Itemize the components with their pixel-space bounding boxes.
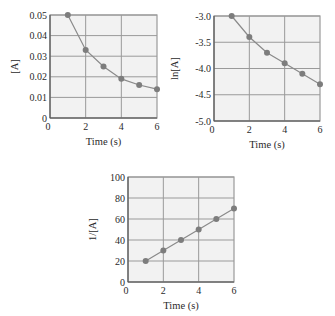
data-point xyxy=(282,60,288,66)
data-point xyxy=(317,81,323,87)
x-axis-label: Time (s) xyxy=(86,136,122,148)
x-tick-label: 2 xyxy=(247,124,252,135)
data-point xyxy=(118,76,124,82)
y-tick-label: 0.01 xyxy=(30,92,48,103)
x-tick-label: 6 xyxy=(155,121,160,132)
data-point xyxy=(154,86,160,92)
x-tick-label: 6 xyxy=(318,124,323,135)
data-point xyxy=(299,71,305,77)
chart-panel: 00.010.020.030.040.050246Time (s)[A]-5.0… xyxy=(0,0,335,316)
data-point xyxy=(229,13,235,19)
y-tick-label: -3.0 xyxy=(195,11,211,22)
x-axis-label: Time (s) xyxy=(249,139,285,151)
y-axis-label: ln[A] xyxy=(169,57,180,80)
data-point xyxy=(143,258,149,264)
data-point xyxy=(178,237,184,243)
x-tick-label: 6 xyxy=(232,285,237,296)
data-point xyxy=(136,82,142,88)
data-point xyxy=(160,248,166,254)
plot-area xyxy=(128,177,234,282)
data-point xyxy=(101,64,107,70)
x-tick-label: 0 xyxy=(124,285,129,296)
data-point xyxy=(231,206,237,212)
x-tick-label: 2 xyxy=(161,285,166,296)
x-tick-label: 4 xyxy=(282,124,287,135)
data-point xyxy=(264,50,270,56)
y-tick-label: 40 xyxy=(115,235,125,246)
y-tick-label: -4.0 xyxy=(195,63,211,74)
y-tick-label: 80 xyxy=(115,193,125,204)
y-tick-label: -4.5 xyxy=(195,89,211,100)
x-tick-label: 0 xyxy=(210,124,215,135)
ln-concentration-chart: -5.0-4.5-4.0-3.5-3.00246Time (s)ln[A] xyxy=(169,11,323,152)
y-tick-label: 0.03 xyxy=(30,51,48,62)
data-point xyxy=(83,47,89,53)
y-tick-label: 20 xyxy=(115,256,125,267)
y-tick-label: 0.04 xyxy=(30,30,48,41)
y-tick-label: 0.05 xyxy=(30,10,48,21)
y-tick-label: 0.02 xyxy=(30,71,48,82)
data-point xyxy=(65,12,71,18)
y-axis-label: 1/[A] xyxy=(87,218,98,241)
data-point xyxy=(196,227,202,233)
x-tick-label: 4 xyxy=(196,285,201,296)
data-point xyxy=(213,216,219,222)
y-axis-label: [A] xyxy=(9,59,20,74)
inverse-concentration-chart: 0204060801000246Time (s)1/[A] xyxy=(87,172,237,313)
concentration-chart: 00.010.020.030.040.050246Time (s)[A] xyxy=(9,10,160,149)
y-tick-label: 100 xyxy=(110,172,125,183)
y-tick-label: -3.5 xyxy=(195,37,211,48)
x-tick-label: 2 xyxy=(83,121,88,132)
x-axis-label: Time (s) xyxy=(163,300,199,312)
y-tick-label: 60 xyxy=(115,214,125,225)
x-tick-label: 4 xyxy=(119,121,124,132)
x-tick-label: 0 xyxy=(46,121,51,132)
data-point xyxy=(246,34,252,40)
